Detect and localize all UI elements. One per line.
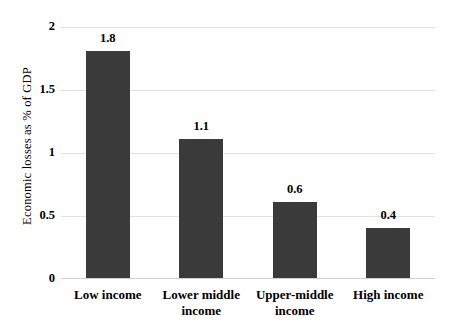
x-category-label: Lower middle income — [155, 287, 249, 319]
x-category-label: Low income — [61, 287, 155, 319]
y-tick-label: 0.5 — [0, 208, 55, 223]
bar-chart: Economic losses as % of GDP 00.511.52 1.… — [0, 0, 455, 331]
x-category-label: Upper-middle income — [248, 287, 342, 319]
bar — [366, 228, 410, 278]
bar-value-label: 0.6 — [248, 183, 342, 196]
bar-value-label: 1.1 — [155, 120, 249, 133]
bar — [86, 51, 130, 278]
gridline — [61, 27, 435, 28]
y-tick-label: 0 — [0, 271, 55, 286]
x-axis-category-labels: Low incomeLower middle incomeUpper-middl… — [61, 287, 435, 319]
x-axis-line — [61, 278, 435, 279]
x-category-label: High income — [342, 287, 436, 319]
bar-value-label: 0.4 — [342, 209, 436, 222]
bar-value-label: 1.8 — [61, 32, 155, 45]
y-tick-label: 2 — [0, 19, 55, 34]
bar — [273, 202, 317, 278]
bar — [179, 139, 223, 278]
y-tick-label: 1 — [0, 145, 55, 160]
plot-area: 1.81.10.60.4 — [61, 27, 435, 279]
y-tick-label: 1.5 — [0, 82, 55, 97]
y-axis-tick-labels: 00.511.52 — [0, 27, 55, 279]
